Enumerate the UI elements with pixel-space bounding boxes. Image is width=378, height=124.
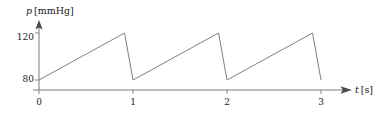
y-tick-marks xyxy=(35,33,39,80)
x-axis-label: t [s] xyxy=(355,85,373,95)
x-tick-label-0: 0 xyxy=(31,98,47,107)
pressure-time-chart: p [mmHg] t [s] 120 80 0 1 2 3 xyxy=(0,0,378,124)
y-axis-unit: [mmHg] xyxy=(34,5,74,16)
x-tick-label-2: 2 xyxy=(219,98,235,107)
x-axis-unit: [s] xyxy=(361,84,373,95)
x-tick-marks xyxy=(39,90,321,94)
y-tick-label-80: 80 xyxy=(8,75,34,84)
pressure-waveform-curve xyxy=(39,33,321,80)
y-axis-label: p [mmHg] xyxy=(26,6,74,16)
y-tick-label-120: 120 xyxy=(8,33,34,42)
x-tick-label-3: 3 xyxy=(313,98,329,107)
x-tick-label-1: 1 xyxy=(125,98,141,107)
